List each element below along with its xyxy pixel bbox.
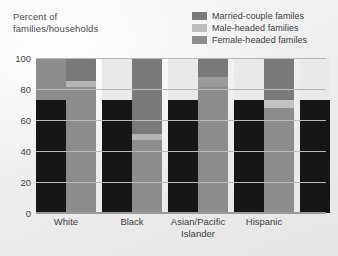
bar-group-trailing — [300, 58, 330, 213]
legend-label: Female-headed familes — [212, 35, 307, 45]
bar-segment — [300, 58, 330, 100]
legend-label: Married-couple familes — [212, 11, 304, 21]
bar-segment — [264, 100, 294, 108]
bar-households — [264, 58, 294, 213]
bar-segment — [300, 100, 330, 213]
legend-item-female-headed: Female-headed familes — [192, 35, 307, 45]
bar-group — [234, 58, 294, 213]
chart-legend: Married-couple familes Male-headed famil… — [192, 11, 307, 45]
bar-segment — [198, 58, 228, 77]
x-axis-label: Hispanic — [226, 216, 302, 228]
chart-figure: Percent of families/households Married-c… — [0, 0, 338, 256]
y-axis-tick-label: 60 — [20, 115, 31, 126]
gridline — [36, 182, 326, 183]
bar-families — [168, 58, 198, 213]
bar-segment — [66, 58, 96, 81]
legend-item-male-headed: Male-headed families — [192, 23, 307, 33]
gridline — [36, 89, 326, 90]
bar-households — [66, 58, 96, 213]
gridline — [36, 58, 326, 59]
gridline — [36, 213, 326, 214]
gridline — [36, 151, 326, 152]
legend-swatch-icon — [192, 12, 207, 20]
y-axis-tick-label: 100 — [15, 53, 31, 64]
bar-families — [234, 58, 264, 213]
x-axis-labels: WhiteBlackAsian/Pacific IslanderHispanic — [36, 216, 326, 252]
bar-households — [198, 58, 228, 213]
bar-families — [102, 58, 132, 213]
bar-segment — [234, 100, 264, 213]
bar-segment — [234, 58, 264, 100]
bar-segment — [168, 58, 198, 100]
bar-group — [36, 58, 96, 213]
bar-segment — [36, 58, 66, 100]
y-axis-title: Percent of families/households — [13, 11, 98, 34]
y-axis-tick-label: 80 — [20, 84, 31, 95]
x-axis-label: Asian/Pacific Islander — [160, 216, 236, 239]
bar-container — [36, 58, 326, 213]
axis-baseline — [36, 212, 326, 213]
bar-families — [36, 58, 66, 213]
bar-families — [300, 58, 330, 213]
legend-swatch-icon — [192, 24, 207, 32]
bar-segment — [102, 58, 132, 100]
bar-group — [102, 58, 162, 213]
bar-segment — [168, 100, 198, 213]
bar-segment — [264, 108, 294, 213]
x-axis-label: White — [28, 216, 104, 228]
bar-segment — [102, 100, 132, 213]
y-axis-tick-label: 40 — [20, 146, 31, 157]
gridline — [36, 120, 326, 121]
y-axis-tick-label: 20 — [20, 177, 31, 188]
bar-households — [132, 58, 162, 213]
bar-segment — [132, 58, 162, 134]
x-axis-label: Black — [94, 216, 170, 228]
bar-group — [168, 58, 228, 213]
legend-label: Male-headed families — [212, 23, 299, 33]
plot-area: 020406080100 — [36, 58, 326, 213]
legend-item-married-couple: Married-couple familes — [192, 11, 307, 21]
bar-segment — [264, 58, 294, 100]
bar-segment — [36, 100, 66, 213]
bar-segment — [198, 77, 228, 88]
legend-swatch-icon — [192, 36, 207, 44]
